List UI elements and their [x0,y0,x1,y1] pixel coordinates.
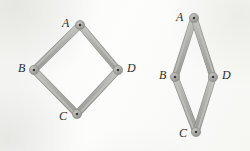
linkage-rod-highlight-DA [195,18,214,77]
linkage-rod-highlight-BC [33,71,76,115]
vertex-label-square-linkage-C: C [59,110,67,122]
vertex-label-rhombus-linkage-B: B [159,69,166,81]
linkage-rod-highlight-AB [33,24,79,69]
vertex-label-rhombus-linkage-C: C [179,127,187,139]
linkage-rod-CD[interactable] [77,70,118,114]
linkage-rod-BC[interactable] [175,77,196,132]
pivot-pin-A [193,17,196,20]
pivot-pin-B [33,69,36,72]
pivot-pin-D [117,69,120,72]
pivot-pin-C [76,113,79,116]
linkage-rod-DA[interactable] [194,18,213,77]
linkage-rod-highlight-DA [81,24,119,69]
vertex-label-square-linkage-A: A [62,17,69,29]
pivot-pin-A [79,24,82,27]
linkage-rod-highlight-BC [174,77,195,132]
square-linkage [29,20,122,118]
linkage-diagram-svg [0,0,250,151]
linkage-rod-AB[interactable] [175,18,194,77]
vertex-label-rhombus-linkage-D: D [222,69,231,81]
linkage-rod-highlight-AB [174,18,193,77]
linkage-rod-AB[interactable] [34,25,80,70]
diagram-layer [29,13,217,136]
linkage-rod-DA[interactable] [80,25,118,70]
pivot-pin-B [174,76,177,79]
linkage-rod-BC[interactable] [34,70,77,114]
figure-canvas: ABCDABCD [0,0,250,151]
pivot-pin-C [195,131,198,134]
linkage-rod-highlight-CD [197,77,214,132]
vertex-label-square-linkage-D: D [127,62,136,74]
linkage-rod-highlight-CD [78,71,119,115]
vertex-label-rhombus-linkage-A: A [176,11,183,23]
rhombus-linkage [170,13,217,136]
pivot-pin-D [212,76,215,79]
linkage-rod-CD[interactable] [196,77,213,132]
vertex-label-square-linkage-B: B [18,62,25,74]
